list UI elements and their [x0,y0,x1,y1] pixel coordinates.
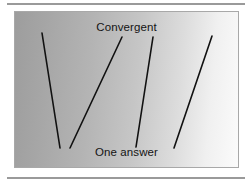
figure-top-label: Convergent [15,21,238,33]
line-1 [42,33,60,148]
line-3 [136,37,153,147]
top-divider-rule [7,3,245,5]
line-4 [174,36,212,148]
line-2 [70,37,122,148]
bottom-divider-rule [7,177,245,179]
convergent-thinking-figure: Convergent One answer [14,11,239,168]
converging-lines-graphic [15,12,238,167]
figure-bottom-label: One answer [15,146,238,158]
